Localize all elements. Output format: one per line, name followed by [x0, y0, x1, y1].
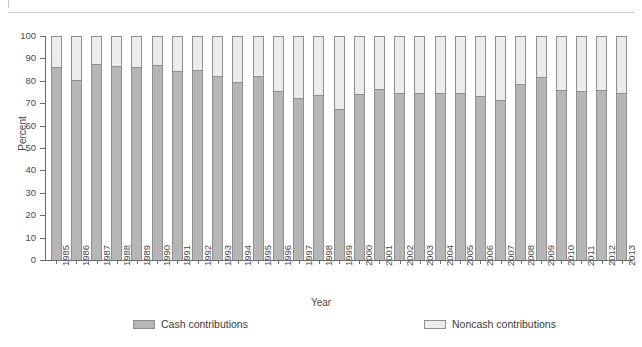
x-axis-tick: [602, 260, 603, 264]
x-axis-tick: [400, 260, 401, 264]
x-axis-tick-label: 2012: [606, 245, 617, 266]
x-axis-tick-label: 2000: [363, 245, 374, 266]
bar-segment-cash: [192, 70, 203, 260]
bar-column[interactable]: [253, 36, 264, 260]
bar-column[interactable]: [475, 36, 486, 260]
x-axis-tick-label: 2009: [545, 245, 556, 266]
x-axis-tick-label: 1995: [262, 245, 273, 266]
stacked-bar-chart: 0102030405060708090100 Percent 198519861…: [0, 0, 642, 347]
y-axis-tick: [40, 193, 45, 194]
bar-column[interactable]: [71, 36, 82, 260]
y-axis-tick: [40, 58, 45, 59]
y-axis-tick: [40, 81, 45, 82]
bar-column[interactable]: [293, 36, 304, 260]
x-axis-tick: [238, 260, 239, 264]
bar-column[interactable]: [51, 36, 62, 260]
x-axis-tick-label: 2013: [626, 245, 637, 266]
x-axis-tick-label: 2005: [464, 245, 475, 266]
bar-segment-cash: [334, 109, 345, 260]
bar-column[interactable]: [435, 36, 446, 260]
y-axis-tick-label: 0: [0, 255, 36, 264]
bar-segment-cash: [51, 67, 62, 260]
bar-segment-cash: [253, 76, 264, 260]
y-axis-tick: [40, 238, 45, 239]
y-axis-tick: [40, 170, 45, 171]
x-axis-tick-label: 2007: [505, 245, 516, 266]
y-axis-tick-label: 30: [0, 188, 36, 197]
x-axis-tick: [440, 260, 441, 264]
bar-column[interactable]: [313, 36, 324, 260]
bar-column[interactable]: [616, 36, 627, 260]
y-axis-tick-label: 20: [0, 210, 36, 219]
bar-column[interactable]: [152, 36, 163, 260]
bar-column[interactable]: [131, 36, 142, 260]
y-axis-tick: [40, 148, 45, 149]
bar-column[interactable]: [556, 36, 567, 260]
bar-segment-cash: [152, 65, 163, 260]
bar-column[interactable]: [91, 36, 102, 260]
bar-column[interactable]: [414, 36, 425, 260]
x-axis-tick-label: 2004: [444, 245, 455, 266]
y-axis-tick: [40, 260, 45, 261]
bar-column[interactable]: [273, 36, 284, 260]
bar-segment-cash: [515, 84, 526, 260]
bar-segment-cash: [232, 82, 243, 260]
bar-column[interactable]: [576, 36, 587, 260]
bar-segment-cash: [556, 90, 567, 260]
bar-segment-cash: [536, 77, 547, 260]
y-axis-title: Percent: [17, 94, 28, 174]
x-axis-tick: [359, 260, 360, 264]
header-divider: [8, 12, 634, 13]
bar-column[interactable]: [111, 36, 122, 260]
x-axis-tick-label: 1994: [242, 245, 253, 266]
bar-column[interactable]: [232, 36, 243, 260]
chart-legend: Cash contributions Noncash contributions: [0, 318, 642, 334]
x-axis-tick: [319, 260, 320, 264]
x-axis-tick: [117, 260, 118, 264]
x-axis-tick-label: 2003: [424, 245, 435, 266]
bar-column[interactable]: [596, 36, 607, 260]
x-axis-tick-label: 1996: [282, 245, 293, 266]
bar-column[interactable]: [334, 36, 345, 260]
x-axis-tick-label: 2006: [484, 245, 495, 266]
bar-segment-cash: [394, 93, 405, 260]
x-axis-tick-label: 2001: [383, 245, 394, 266]
bar-segment-cash: [435, 93, 446, 260]
x-axis-tick-label: 1999: [343, 245, 354, 266]
header-tick-mark: [8, 0, 9, 8]
x-axis-tick: [137, 260, 138, 264]
x-axis-tick-label: 1987: [101, 245, 112, 266]
bar-segment-cash: [616, 93, 627, 260]
y-axis-tick: [40, 215, 45, 216]
y-axis-tick-label: 10: [0, 233, 36, 242]
bar-column[interactable]: [354, 36, 365, 260]
bar-series-group: [46, 36, 632, 260]
x-axis-tick-label: 2010: [565, 245, 576, 266]
x-axis-tick-label: 1985: [60, 245, 71, 266]
legend-item-noncash: Noncash contributions: [424, 318, 556, 330]
x-axis-tick-label: 1993: [222, 245, 233, 266]
x-axis-tick: [622, 260, 623, 264]
x-axis-tick: [56, 260, 57, 264]
bar-column[interactable]: [495, 36, 506, 260]
bar-segment-cash: [131, 67, 142, 260]
x-axis-tick-label: 1990: [161, 245, 172, 266]
x-axis-tick: [581, 260, 582, 264]
x-axis-tick: [157, 260, 158, 264]
bar-column[interactable]: [374, 36, 385, 260]
x-axis-tick: [198, 260, 199, 264]
bar-column[interactable]: [455, 36, 466, 260]
x-axis-tick-label: 2011: [585, 246, 596, 266]
bar-column[interactable]: [515, 36, 526, 260]
y-axis-tick: [40, 126, 45, 127]
bar-column[interactable]: [394, 36, 405, 260]
x-axis-tick: [299, 260, 300, 264]
bar-column[interactable]: [212, 36, 223, 260]
x-axis-tick: [561, 260, 562, 264]
legend-label-cash: Cash contributions: [161, 318, 248, 330]
x-axis-tick-label: 1986: [80, 245, 91, 266]
bar-column[interactable]: [172, 36, 183, 260]
bar-column[interactable]: [192, 36, 203, 260]
legend-swatch-noncash: [424, 320, 446, 329]
bar-column[interactable]: [536, 36, 547, 260]
